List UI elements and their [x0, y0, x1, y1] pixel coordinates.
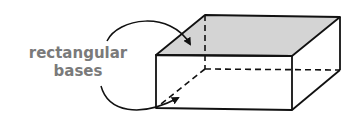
- label-line-1: rectangular: [18, 44, 138, 62]
- label-line-2: bases: [18, 62, 138, 80]
- rectangular-bases-label: rectangular bases: [18, 44, 138, 80]
